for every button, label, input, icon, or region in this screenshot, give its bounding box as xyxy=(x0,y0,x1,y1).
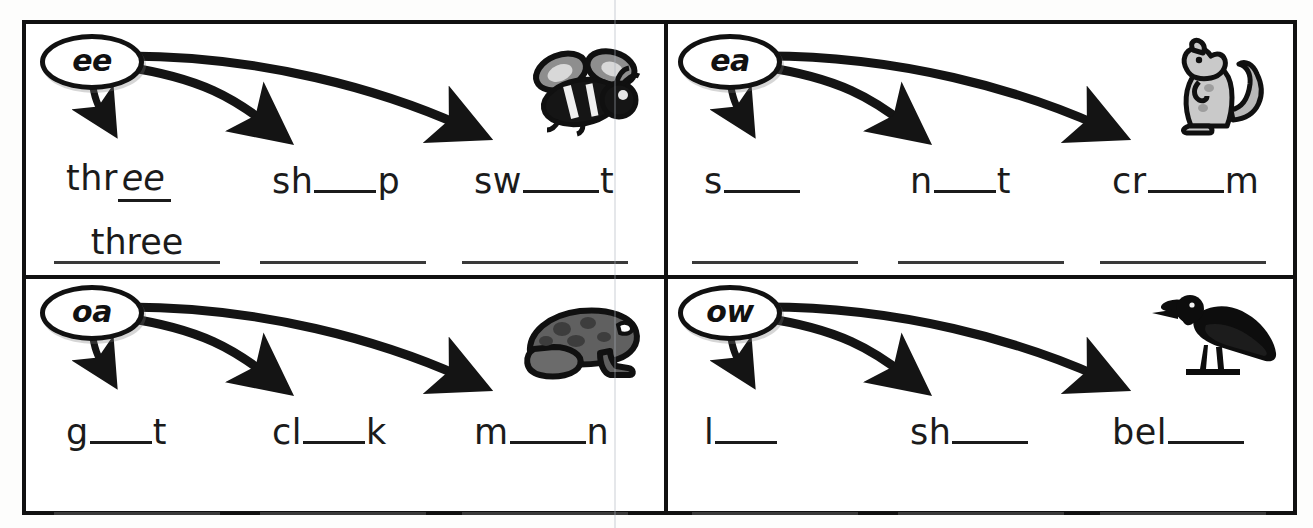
word-suffix: t xyxy=(997,159,1011,203)
word-slot: bel xyxy=(1090,407,1295,522)
word-slot: n t xyxy=(888,156,1093,271)
word-prompt: s xyxy=(682,156,887,210)
answer-line[interactable] xyxy=(898,218,1064,264)
word-row-ea: s n t xyxy=(660,156,1298,271)
word-prefix: sw xyxy=(474,159,522,203)
word-row-ee: thr ee three sh p xyxy=(22,156,660,271)
word-prefix: n xyxy=(910,159,933,203)
answer-line[interactable] xyxy=(54,469,220,515)
word-row-oa: g t cl k xyxy=(22,407,660,522)
word-blank[interactable] xyxy=(510,407,586,444)
phoneme-bubble-label: ow xyxy=(706,297,753,327)
word-blank[interactable] xyxy=(1148,156,1224,193)
frog-icon xyxy=(514,291,650,386)
word-slot: m n xyxy=(452,407,657,522)
phoneme-bubble-ow: ow xyxy=(678,285,782,341)
answer-line[interactable] xyxy=(898,469,1064,515)
phoneme-bubble-ee: ee xyxy=(40,34,144,90)
word-slot: sh xyxy=(888,407,1093,522)
worksheet-cell-ow: ow xyxy=(660,271,1298,522)
word-suffix: k xyxy=(366,410,387,454)
answer-line[interactable] xyxy=(1100,469,1266,515)
answer-rule xyxy=(1100,261,1266,264)
phoneme-bubble-oa: oa xyxy=(40,285,144,341)
word-blank[interactable] xyxy=(523,156,599,193)
word-slot: sh p xyxy=(250,156,455,271)
word-prefix: sh xyxy=(272,159,313,203)
word-prefix: g xyxy=(66,410,89,454)
answer-line[interactable] xyxy=(692,469,858,515)
word-prompt: thr ee xyxy=(44,156,249,210)
word-prefix: cl xyxy=(272,410,302,454)
word-slot: cr m xyxy=(1090,156,1295,271)
answer-rule xyxy=(260,261,426,264)
phoneme-bubble-ea: ea xyxy=(678,34,782,90)
word-blank[interactable] xyxy=(314,156,376,193)
worksheet-sheet: ee xyxy=(0,0,1313,528)
worksheet-cell-ea: ea xyxy=(660,20,1298,271)
word-prefix: bel xyxy=(1112,410,1167,454)
word-blank[interactable] xyxy=(90,407,152,444)
answer-line[interactable] xyxy=(260,469,426,515)
word-slot: cl k xyxy=(250,407,455,522)
answer-rule xyxy=(462,261,628,264)
answer-line[interactable] xyxy=(1100,218,1266,264)
worksheet-cell-oa: oa xyxy=(22,271,660,522)
word-prefix: l xyxy=(704,410,714,454)
answer-rule xyxy=(462,512,628,515)
word-prefix: m xyxy=(474,410,509,454)
answer-rule xyxy=(1100,512,1266,515)
word-suffix: m xyxy=(1225,159,1260,203)
worksheet-cell-ee: ee xyxy=(22,20,660,271)
answer-line[interactable] xyxy=(462,469,628,515)
answer-rule xyxy=(692,261,858,264)
word-blank-filled[interactable]: ee xyxy=(118,159,171,202)
answer-rule xyxy=(898,261,1064,264)
bee-icon xyxy=(519,38,649,138)
answer-rule xyxy=(692,512,858,515)
crow-icon xyxy=(1150,283,1286,388)
word-blank[interactable] xyxy=(1168,407,1244,444)
word-slot: l xyxy=(682,407,887,522)
word-prefix: cr xyxy=(1112,159,1147,203)
word-prompt: l xyxy=(682,407,887,461)
word-prompt: cl k xyxy=(250,407,455,461)
answer-line[interactable] xyxy=(462,218,628,264)
word-slot: thr ee three xyxy=(44,156,249,271)
word-prompt: sh p xyxy=(250,156,455,210)
word-blank[interactable] xyxy=(303,407,365,444)
word-suffix: n xyxy=(587,410,610,454)
phoneme-bubble-label: ee xyxy=(72,46,112,76)
answer-rule xyxy=(54,261,220,264)
word-blank[interactable] xyxy=(952,407,1028,444)
word-blank[interactable] xyxy=(724,156,800,193)
phoneme-bubble-label: oa xyxy=(72,297,112,327)
word-suffix: t xyxy=(153,410,167,454)
word-suffix: t xyxy=(600,159,614,203)
word-prompt: n t xyxy=(888,156,1093,210)
word-prompt: cr m xyxy=(1090,156,1295,210)
word-prefix: thr xyxy=(66,156,118,200)
answer-line[interactable] xyxy=(692,218,858,264)
word-prefix: sh xyxy=(910,410,951,454)
phoneme-bubble-label: ea xyxy=(710,46,750,76)
word-prompt: sw t xyxy=(452,156,657,210)
word-slot: sw t xyxy=(452,156,657,271)
answer-rule xyxy=(898,512,1064,515)
word-prompt: m n xyxy=(452,407,657,461)
squirrel-icon xyxy=(1147,34,1282,139)
answer-line[interactable]: three xyxy=(54,218,220,264)
word-prompt: bel xyxy=(1090,407,1295,461)
answer-rule xyxy=(260,512,426,515)
word-blank[interactable] xyxy=(715,407,777,444)
word-slot: g t xyxy=(44,407,249,522)
word-slot: s xyxy=(682,156,887,271)
word-suffix: p xyxy=(377,159,400,203)
word-prefix: s xyxy=(704,159,723,203)
word-blank[interactable] xyxy=(934,156,996,193)
answer-line[interactable] xyxy=(260,218,426,264)
word-row-ow: l sh xyxy=(660,407,1298,522)
word-prompt: sh xyxy=(888,407,1093,461)
answer-rule xyxy=(54,512,220,515)
answer-text: three xyxy=(54,224,220,260)
